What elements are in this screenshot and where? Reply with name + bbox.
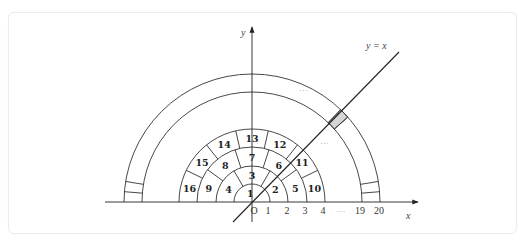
cell-label: 6 <box>275 160 282 171</box>
concentric-semicircle-diagram: x y y = x O1234···1920 12345678910111213… <box>0 0 524 250</box>
cell-label: 14 <box>218 139 232 150</box>
radial-divider <box>234 171 243 187</box>
radial-divider <box>261 171 270 187</box>
x-tick-label: ··· <box>337 206 346 216</box>
outer-radial-divider <box>124 192 142 193</box>
cell-label: 8 <box>222 160 229 171</box>
ellipsis-label: ··· <box>320 138 329 148</box>
radial-divider <box>263 150 269 168</box>
x-tick-label: 3 <box>303 205 308 216</box>
cell-label: 4 <box>225 184 232 195</box>
cell-label: 15 <box>195 157 208 168</box>
x-tick-label: 19 <box>355 205 365 216</box>
radial-divider <box>264 131 268 149</box>
cell-label: 16 <box>183 183 197 194</box>
x-tick-label: 1 <box>266 205 271 216</box>
x-tick-label: O <box>250 205 257 216</box>
outer-radial-divider <box>361 181 379 184</box>
radial-divider <box>281 170 296 181</box>
ellipsis-label: ··· <box>299 85 308 95</box>
radial-divider <box>236 131 240 149</box>
cell-label: 5 <box>292 183 299 194</box>
radial-divider <box>235 150 241 168</box>
x-tick-label: 2 <box>285 205 290 216</box>
cell-label: 1 <box>247 188 254 199</box>
cell-label: 7 <box>249 152 256 163</box>
x-axis-label: x <box>405 210 411 221</box>
cell-label: 3 <box>249 170 256 181</box>
cell-label: 9 <box>205 183 212 194</box>
cell-label: 12 <box>273 139 286 150</box>
outer-radial-divider <box>362 192 380 193</box>
y-axis-label: y <box>240 27 246 38</box>
x-tick-label: 20 <box>374 205 384 216</box>
outer-radial-divider <box>126 181 144 184</box>
cell-label: 13 <box>245 133 258 144</box>
labels: x y y = x <box>240 27 411 221</box>
line-equation-label: y = x <box>365 40 387 51</box>
radial-divider <box>208 170 223 181</box>
x-tick-labels: O1234···1920 <box>250 205 384 216</box>
x-tick-label: 4 <box>321 205 326 216</box>
cell-label: 11 <box>295 157 308 168</box>
cell-label: 2 <box>272 184 279 195</box>
cell-label: 10 <box>308 183 322 194</box>
radial-divider <box>302 170 318 178</box>
radial-divider <box>186 170 202 178</box>
